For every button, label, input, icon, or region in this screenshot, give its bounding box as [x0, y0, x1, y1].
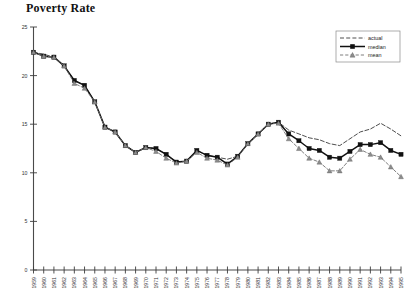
x-axis-tick-label: 1960: [41, 277, 47, 289]
x-axis-tick-label: 1989: [337, 277, 343, 289]
x-axis-tick-label: 1976: [204, 277, 210, 289]
y-axis: 0510152025: [22, 24, 37, 273]
x-axis-tick-label: 1971: [153, 277, 159, 289]
y-axis-tick-label: 10: [22, 170, 28, 176]
x-axis-tick-label: 1981: [255, 277, 261, 289]
x-axis-tick-label: 1968: [122, 277, 128, 289]
x-axis-tick-label: 1963: [71, 277, 77, 289]
data-point-median: [348, 149, 352, 153]
x-axis-tick-label: 1994: [388, 277, 394, 289]
data-point-median: [399, 152, 403, 156]
x-axis-tick-label: 1962: [61, 277, 67, 289]
x-axis: 1959196019611962196319641965196619671968…: [31, 267, 405, 289]
data-point-mean: [297, 146, 302, 150]
chart-plot-area: 0510152025 19591960196119621963196419651…: [0, 0, 411, 304]
y-axis-tick-label: 15: [22, 121, 28, 127]
data-point-median: [368, 143, 372, 147]
x-axis-tick-label: 1966: [102, 277, 108, 289]
data-point-median: [307, 146, 311, 150]
x-axis-tick-label: 1986: [306, 277, 312, 289]
data-point-median: [378, 141, 382, 145]
x-axis-tick-label: 1993: [378, 277, 384, 289]
x-axis-tick-label: 1961: [51, 277, 57, 289]
x-axis-tick-label: 1983: [276, 277, 282, 289]
data-point-mean: [358, 147, 363, 151]
series-line-actual: [34, 52, 402, 162]
x-axis-tick-label: 1980: [245, 277, 251, 289]
data-point-mean: [368, 152, 373, 156]
legend-label-median: median: [368, 44, 386, 50]
data-point-median: [389, 148, 393, 152]
x-axis-tick-label: 1964: [82, 277, 88, 289]
x-axis-tick-label: 1982: [265, 277, 271, 289]
x-axis-tick-label: 1990: [347, 277, 353, 289]
data-point-median: [327, 155, 331, 159]
data-point-median: [287, 132, 291, 136]
x-axis-tick-label: 1972: [163, 277, 169, 289]
legend-label-actual: actual: [368, 35, 382, 41]
x-axis-tick-label: 1970: [143, 277, 149, 289]
data-point-mean: [286, 136, 291, 140]
x-axis-tick-label: 1984: [286, 277, 292, 289]
x-axis-tick-label: 1985: [296, 277, 302, 289]
data-series-group: [31, 50, 403, 179]
data-point-mean: [317, 160, 322, 164]
x-axis-tick-label: 1995: [398, 277, 404, 289]
x-axis-tick-label: 1959: [31, 277, 37, 289]
x-axis-tick-label: 1974: [184, 277, 190, 289]
x-axis-tick-label: 1988: [327, 277, 333, 289]
x-axis-tick-label: 1987: [316, 277, 322, 289]
x-axis-tick-label: 1965: [92, 277, 98, 289]
y-axis-tick-label: 5: [25, 218, 28, 224]
legend-marker-median: [350, 44, 355, 49]
series-line-median: [34, 52, 402, 164]
x-axis-tick-label: 1969: [133, 277, 139, 289]
data-point-median: [358, 143, 362, 147]
x-axis-tick-label: 1967: [112, 277, 118, 289]
data-point-mean: [388, 165, 393, 169]
chart-legend: actualmedianmean: [336, 31, 400, 62]
x-axis-tick-label: 1978: [224, 277, 230, 289]
data-point-median: [297, 139, 301, 143]
data-point-median: [338, 156, 342, 160]
x-axis-tick-label: 1973: [173, 277, 179, 289]
x-axis-tick-label: 1977: [214, 277, 220, 289]
x-axis-tick-label: 1992: [367, 277, 373, 289]
legend-label-mean: mean: [368, 52, 382, 58]
x-axis-tick-label: 1979: [235, 277, 241, 289]
data-point-median: [317, 148, 321, 152]
y-axis-tick-label: 25: [22, 24, 28, 30]
y-axis-tick-label: 0: [25, 267, 28, 273]
x-axis-tick-label: 1991: [357, 277, 363, 289]
y-axis-tick-label: 20: [22, 73, 28, 79]
poverty-rate-chart: Poverty Rate 0510152025 1959196019611962…: [0, 0, 411, 304]
x-axis-tick-label: 1975: [194, 277, 200, 289]
